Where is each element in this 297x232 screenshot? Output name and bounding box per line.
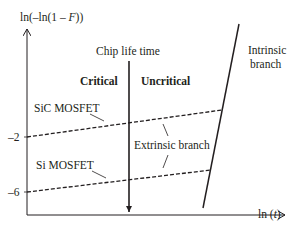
- x-axis-label-suffix: ): [277, 208, 281, 220]
- uncritical-region-label: Uncritical: [141, 76, 190, 88]
- si-mosfet-label: Si MOSFET: [36, 160, 94, 172]
- extrinsic-leader-up: [163, 124, 168, 136]
- y-axis-label: ln(–ln(1 – F)): [20, 12, 83, 24]
- intrinsic-branch-line: [203, 24, 239, 208]
- y-axis-label-var: F: [69, 11, 76, 23]
- critical-region-label: Critical: [80, 76, 118, 88]
- weibull-diagram: [0, 0, 297, 232]
- sic-mosfet-label: SiC MOSFET: [34, 103, 100, 115]
- si-leader-line: [92, 171, 106, 178]
- chip-life-time-label: Chip life time: [96, 46, 160, 58]
- intrinsic-branch-label-line2: branch: [250, 59, 281, 71]
- extrinsic-branch-label: Extrinsic branch: [134, 140, 210, 152]
- y-axis-label-suffix: )): [76, 11, 84, 23]
- x-axis-label-prefix: ln (: [258, 208, 274, 220]
- extrinsic-leader-down: [163, 155, 168, 168]
- x-axis-label: ln (t): [258, 209, 281, 221]
- y-axis-label-prefix: ln(–ln(1 –: [20, 11, 69, 23]
- sic-leader-line: [90, 114, 104, 121]
- si-mosfet-line: [27, 170, 211, 192]
- tick-label: –2: [8, 132, 20, 144]
- tick-label: –6: [8, 187, 20, 199]
- intrinsic-branch-label-line1: Intrinsic: [248, 45, 286, 57]
